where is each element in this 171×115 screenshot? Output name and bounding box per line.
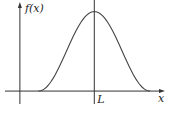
annotation-label-L: L [96, 93, 104, 106]
chart: f(x) x L [0, 0, 171, 115]
y-axis-arrow-icon [18, 2, 22, 8]
y-axis-label: f(x) [24, 2, 44, 15]
x-axis-label: x [158, 92, 165, 105]
